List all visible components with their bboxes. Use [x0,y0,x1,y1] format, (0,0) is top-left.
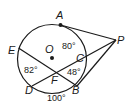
label-f: F [51,74,59,86]
label-d: D [25,84,33,96]
label-p: P [117,34,125,46]
center-o-dot [50,56,54,60]
tangent-pa [61,25,117,40]
label-b: B [72,84,79,96]
arc-db-measure: 100° [47,93,66,102]
angle-cfb-measure: 48° [67,67,81,77]
point-a-dot [59,23,63,27]
label-o: O [45,43,54,55]
arc-ed-measure: 82° [24,65,38,75]
label-e: E [8,44,16,56]
geometry-diagram: A P E O C F D B 80° 82° 48° 100° [0,0,128,102]
arc-ac-measure: 80° [62,41,76,51]
label-c: C [76,52,84,64]
label-a: A [55,9,63,21]
